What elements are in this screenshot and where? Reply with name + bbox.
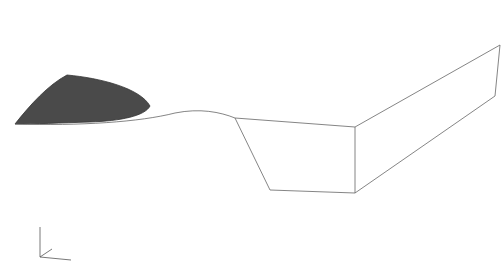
y-axis-line	[40, 249, 52, 257]
axis-triad	[40, 227, 71, 260]
mesh-viewport	[0, 0, 501, 275]
x-axis-line	[40, 257, 71, 260]
shaded-region	[15, 75, 150, 124]
